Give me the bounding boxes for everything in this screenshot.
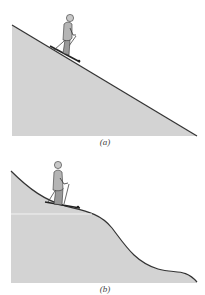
panel-b-label: (b) <box>85 284 125 294</box>
panel-a-label: (a) <box>85 137 125 147</box>
panel-a <box>12 14 197 136</box>
hill-fill <box>11 171 197 283</box>
panel-b <box>11 161 197 283</box>
figure-canvas <box>0 0 205 295</box>
